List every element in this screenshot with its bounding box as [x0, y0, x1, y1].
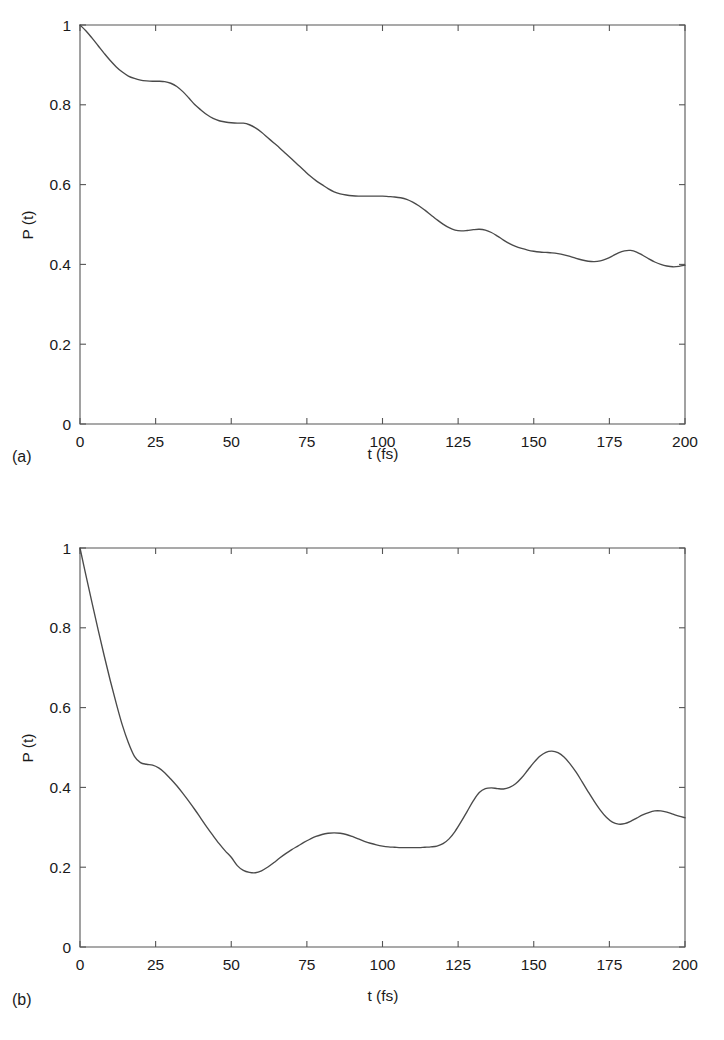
- y-tick-label: 0.4: [49, 256, 71, 273]
- y-tick-label: 0.6: [49, 699, 71, 716]
- panel-b-tick-marks: [80, 548, 685, 947]
- y-tick-label: 0.8: [49, 96, 71, 113]
- panel-a: 0255075100125150175200 00.20.40.60.81 t …: [0, 0, 724, 500]
- panel-b-tag: (b): [12, 991, 32, 1008]
- panel-b-x-tick-labels: 0255075100125150175200: [76, 956, 699, 973]
- x-tick-label: 200: [672, 956, 698, 973]
- panel-a-x-axis-title: t (fs): [368, 445, 399, 462]
- panel-a-plot: 0255075100125150175200 00.20.40.60.81 t …: [0, 0, 724, 500]
- x-tick-label: 0: [76, 433, 85, 450]
- x-tick-label: 25: [147, 433, 164, 450]
- x-tick-label: 0: [76, 956, 85, 973]
- x-tick-label: 75: [298, 433, 315, 450]
- panel-b-data-curve: [80, 548, 685, 873]
- y-tick-label: 0: [62, 939, 71, 956]
- panel-b-plot: 0255075100125150175200 00.20.40.60.81 t …: [0, 500, 724, 1040]
- y-tick-label: 0.8: [49, 619, 71, 636]
- x-tick-label: 25: [147, 956, 164, 973]
- x-tick-label: 100: [370, 956, 396, 973]
- panel-a-tick-marks: [80, 25, 685, 424]
- panel-b-axis-frame: [80, 548, 685, 947]
- panel-a-y-axis-title: P (t): [19, 211, 36, 240]
- panel-a-axis-frame: [80, 25, 685, 424]
- x-tick-label: 125: [445, 956, 471, 973]
- x-tick-label: 50: [223, 433, 241, 450]
- x-tick-label: 175: [596, 433, 622, 450]
- x-tick-label: 50: [223, 956, 241, 973]
- y-tick-label: 1: [62, 540, 71, 557]
- y-tick-label: 0.6: [49, 176, 71, 193]
- x-tick-label: 75: [298, 956, 315, 973]
- figure-container: 0255075100125150175200 00.20.40.60.81 t …: [0, 0, 724, 1040]
- y-tick-label: 0.2: [49, 336, 71, 353]
- x-tick-label: 150: [521, 433, 547, 450]
- panel-b-y-tick-labels: 00.20.40.60.81: [49, 540, 71, 956]
- x-tick-label: 200: [672, 433, 698, 450]
- y-tick-label: 0.2: [49, 859, 71, 876]
- x-tick-label: 150: [521, 956, 547, 973]
- y-tick-label: 0: [62, 416, 71, 433]
- panel-a-y-tick-labels: 00.20.40.60.81: [49, 17, 71, 433]
- panel-b-x-axis-title: t (fs): [368, 987, 399, 1004]
- panel-a-tag: (a): [12, 448, 32, 465]
- panel-b: 0255075100125150175200 00.20.40.60.81 t …: [0, 500, 724, 1040]
- panel-a-data-curve: [80, 25, 685, 267]
- x-tick-label: 125: [445, 433, 471, 450]
- x-tick-label: 175: [596, 956, 622, 973]
- panel-b-y-axis-title: P (t): [19, 734, 36, 763]
- y-tick-label: 0.4: [49, 779, 71, 796]
- y-tick-label: 1: [62, 17, 71, 34]
